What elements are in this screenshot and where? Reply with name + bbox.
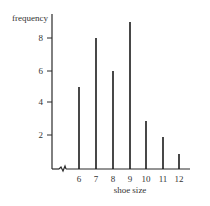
x-axis-label: shoe size — [114, 185, 147, 195]
y-axis-label: frequency — [12, 13, 48, 23]
bars — [79, 22, 179, 169]
x-tick-label: 7 — [94, 174, 99, 184]
x-axis — [52, 166, 190, 171]
y-ticks: 8 6 4 2 — [39, 33, 53, 140]
x-tick-label: 9 — [128, 174, 133, 184]
x-tick-label: 6 — [77, 174, 82, 184]
x-tick-label: 8 — [111, 174, 116, 184]
x-tick-label: 12 — [175, 174, 184, 184]
x-tick-label: 10 — [142, 174, 152, 184]
y-tick-label: 2 — [39, 130, 44, 140]
x-tick-label: 11 — [159, 174, 168, 184]
axis-break-icon — [59, 166, 66, 171]
chart: frequency 8 6 4 2 6 7 8 9 10 11 12 — [0, 0, 210, 206]
y-tick-label: 8 — [39, 33, 44, 43]
y-tick-label: 4 — [39, 97, 44, 107]
x-ticks: 6 7 8 9 10 11 12 — [77, 174, 184, 184]
y-tick-label: 6 — [39, 66, 44, 76]
